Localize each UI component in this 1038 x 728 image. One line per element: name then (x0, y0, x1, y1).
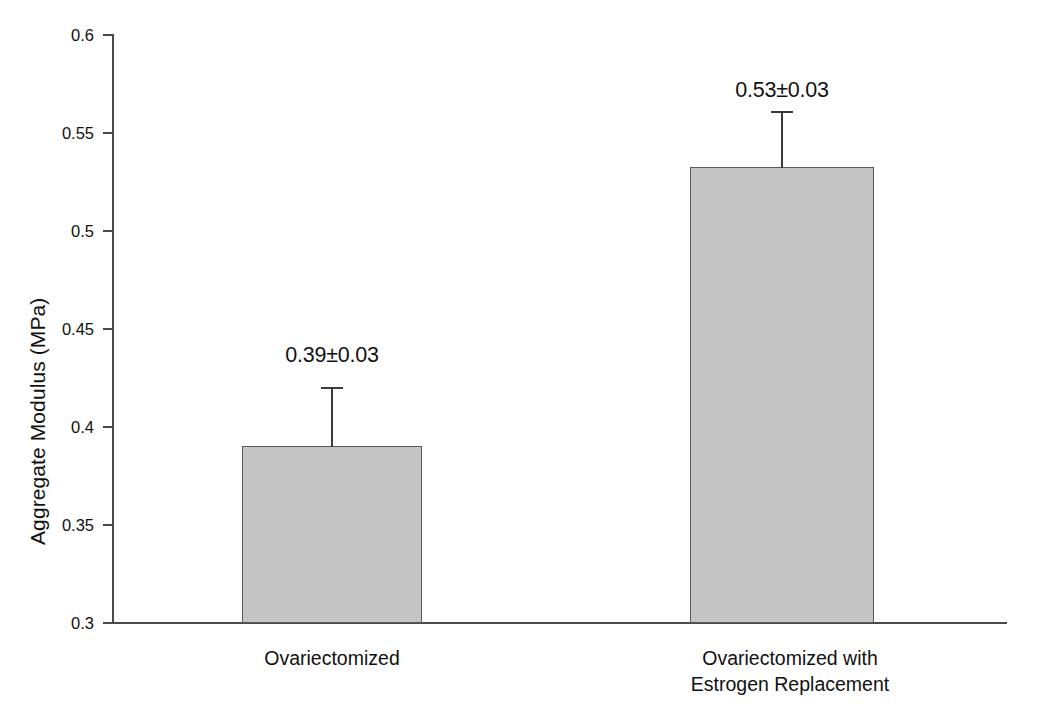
y-tick-label: 0.5 (0, 223, 94, 240)
value-label-ovariectomized-estrogen: 0.53±0.03 (662, 78, 902, 102)
y-tick-mark (103, 132, 113, 134)
y-tick-label: 0.6 (0, 27, 94, 44)
y-tick-label: 0.35 (0, 517, 94, 534)
bar-ovariectomized-estrogen (690, 167, 874, 623)
error-bar-stem-ovariectomized-estrogen (781, 111, 783, 168)
category-label-ovariectomized-estrogen: Ovariectomized with Estrogen Replacement (640, 645, 940, 697)
y-tick-mark (103, 426, 113, 428)
y-axis-title: Aggregate Modulus (MPa) (18, 0, 58, 545)
error-bar-stem-ovariectomized (331, 387, 333, 447)
y-tick-mark (103, 328, 113, 330)
y-tick-label: 0.3 (0, 615, 94, 632)
y-tick-mark (103, 622, 113, 624)
value-label-ovariectomized: 0.39±0.03 (212, 343, 452, 367)
bar-chart-figure: Aggregate Modulus (MPa) 0.6 0.55 0.5 0.4… (0, 0, 1038, 728)
error-bar-cap-ovariectomized (321, 387, 343, 389)
error-bar-cap-ovariectomized-estrogen (771, 111, 793, 113)
y-tick-mark (103, 34, 113, 36)
y-tick-label: 0.4 (0, 419, 94, 436)
y-tick-label: 0.45 (0, 321, 94, 338)
bar-ovariectomized (242, 446, 422, 623)
category-label-ovariectomized: Ovariectomized (182, 645, 482, 671)
y-tick-mark (103, 524, 113, 526)
y-tick-mark (103, 230, 113, 232)
y-tick-label: 0.55 (0, 125, 94, 142)
